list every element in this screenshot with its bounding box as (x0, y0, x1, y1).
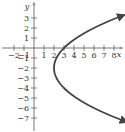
y-tick-label: −3 (17, 74, 29, 83)
parabola-curve (54, 15, 125, 122)
y-tick-label: −6 (17, 104, 29, 113)
x-tick-label: 6 (91, 51, 96, 60)
x-tick-label: 8 (111, 51, 116, 60)
x-tick-label: 4 (71, 51, 76, 60)
x-tick-label: 1 (41, 51, 46, 60)
y-tick-label: −7 (17, 114, 29, 123)
y-tick-label: 1 (24, 34, 29, 43)
parabola-graph: xy −2−112345678321−1−2−3−4−5−6−7 (0, 0, 125, 132)
x-tick-label: 5 (81, 51, 86, 60)
y-tick-label: −1 (17, 54, 29, 63)
y-tick-label: −4 (17, 84, 29, 93)
y-tick-label: −5 (17, 94, 29, 103)
y-tick-label: −2 (17, 64, 29, 73)
x-tick-label: 3 (61, 51, 66, 60)
y-tick-label: 2 (24, 24, 29, 33)
parabola-lower-branch (54, 68, 125, 122)
y-axis-label: y (24, 2, 30, 11)
ticks: −2−112345678321−1−2−3−4−5−6−7 (8, 14, 116, 123)
x-tick-label: 7 (101, 51, 106, 60)
parabola-upper-branch (54, 15, 124, 68)
x-axis-label: x (117, 50, 122, 59)
y-tick-label: 3 (24, 14, 29, 23)
